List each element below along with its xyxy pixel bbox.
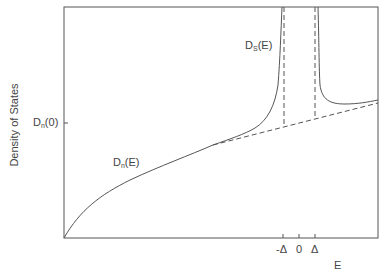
plot-frame: [64, 7, 378, 238]
dn-curve-label: Dn(E): [113, 157, 140, 168]
x-tick-label-delta: Δ: [311, 244, 318, 255]
dos-chart: [0, 0, 384, 277]
x-axis-label: E: [334, 260, 341, 271]
y-axis-label: Density of States: [8, 83, 20, 166]
curve-dn-dashed: [213, 103, 378, 145]
y-tick-label-dn0: Dn(0): [33, 117, 58, 128]
x-tick-label-zero: 0: [296, 244, 302, 255]
curve-ds-right: [318, 7, 378, 104]
ds-curve-label: DS(E): [245, 40, 272, 51]
curve-ds-left: [213, 7, 282, 145]
x-tick-label-neg-delta: -Δ: [276, 244, 287, 255]
